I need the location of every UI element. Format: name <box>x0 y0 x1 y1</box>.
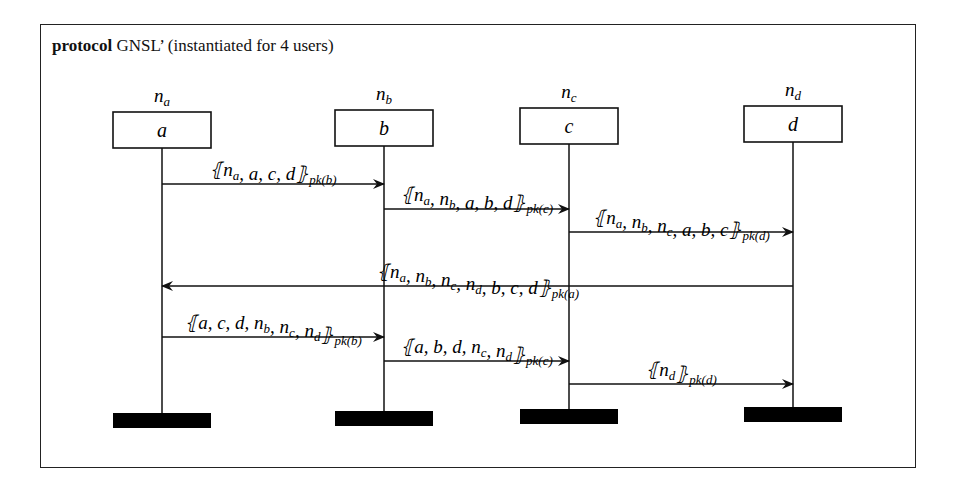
message-4: ⦃na, nb, nc, nd, b, c, d⦄pk(a) <box>162 261 793 301</box>
nonce-label: nb <box>376 83 393 107</box>
message-1: ⦃na, a, c, d⦄pk(b) <box>162 159 384 187</box>
sequence-diagram: naanbbnccndd ⦃na, a, c, d⦄pk(b)⦃na, nb, … <box>0 0 953 493</box>
message-label: ⦃a, c, d, nb, nc, nd⦄pk(b) <box>184 312 362 348</box>
lifeline-end-bar <box>520 409 618 424</box>
message-label: ⦃na, nb, nc, nd, b, c, d⦄pk(a) <box>376 261 579 301</box>
lifeline-end-bar <box>335 411 433 426</box>
participant-c: ncc <box>520 81 618 424</box>
lifeline-end-bar <box>113 413 211 428</box>
message-3: ⦃na, nb, nc, a, b, c⦄pk(d) <box>569 207 793 243</box>
message-label: ⦃nd⦄pk(d) <box>645 359 716 387</box>
role-label: c <box>565 115 574 137</box>
lifeline-end-bar <box>744 407 842 422</box>
role-label: d <box>788 113 799 135</box>
message-5: ⦃a, c, d, nb, nc, nd⦄pk(b) <box>162 312 384 348</box>
participant-a: naa <box>113 85 211 428</box>
role-label: b <box>379 117 389 139</box>
nonce-label: nc <box>561 81 577 105</box>
message-label: ⦃na, a, c, d⦄pk(b) <box>209 159 336 187</box>
nonce-label: nd <box>785 79 802 103</box>
message-label: ⦃a, b, d, nc, nd⦄pk(c) <box>400 336 552 368</box>
message-label: ⦃na, nb, a, b, d⦄pk(c) <box>400 184 553 216</box>
participant-d: ndd <box>744 79 842 422</box>
message-label: ⦃na, nb, nc, a, b, c⦄pk(d) <box>592 207 770 243</box>
nonce-label: na <box>154 85 171 109</box>
participant-b: nbb <box>335 83 433 426</box>
role-label: a <box>157 119 167 141</box>
message-6: ⦃a, b, d, nc, nd⦄pk(c) <box>384 336 569 368</box>
message-2: ⦃na, nb, a, b, d⦄pk(c) <box>384 184 569 216</box>
message-7: ⦃nd⦄pk(d) <box>569 359 793 387</box>
